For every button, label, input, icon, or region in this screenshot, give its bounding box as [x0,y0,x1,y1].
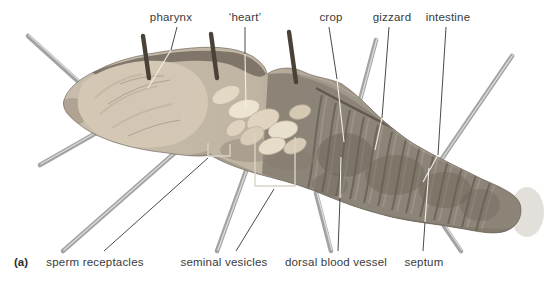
dorsal-blood-vessel-leader [338,198,340,251]
label-seminal-vesicles: seminal vesicles [181,256,268,269]
label-septum: septum [405,256,444,269]
pin [316,193,331,251]
label-pharynx: pharynx [150,11,192,24]
crop-leader [329,27,337,79]
panel-tag: (a) [14,256,28,268]
label-gizzard: gizzard [373,11,411,24]
intestine-leader [438,27,446,155]
earthworm-dissection-photo [0,0,544,287]
pharynx-leader [171,27,177,50]
septum-leader [423,222,425,251]
pin [444,226,461,251]
labeled-dissection-figure: pharynx ‘heart’ crop gizzard intestine (… [0,0,544,287]
label-dorsal-blood-vessel: dorsal blood vessel [285,256,387,269]
seminal-vesicles-leader [236,189,274,251]
body-detail [56,51,524,242]
label-heart: ‘heart’ [229,11,262,24]
label-intestine: intestine [426,11,471,24]
label-crop: crop [319,11,342,24]
label-sperm-receptacles: sperm receptacles [46,256,143,269]
gizzard-leader [382,27,389,118]
